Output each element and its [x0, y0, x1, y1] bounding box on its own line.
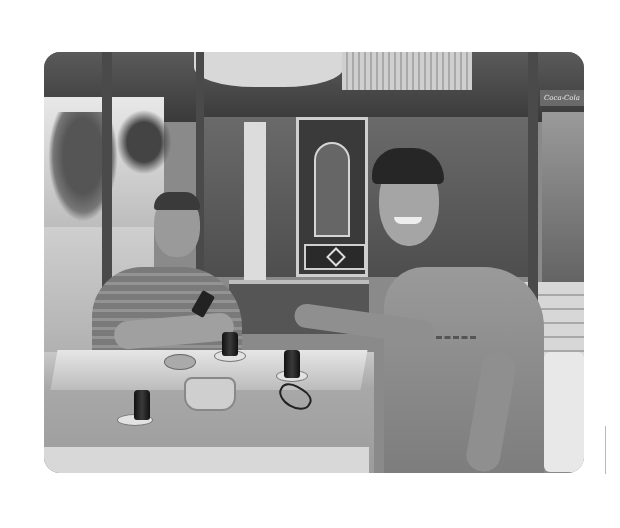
support-post — [528, 52, 538, 312]
pillar — [244, 122, 266, 282]
support-post — [196, 52, 204, 282]
awning — [194, 52, 344, 87]
door-arch — [314, 142, 350, 237]
divider-line — [605, 426, 606, 474]
smile — [394, 217, 422, 224]
tea-glass — [222, 332, 238, 356]
coca-cola-sign: Coca-Cola — [540, 90, 584, 106]
tablecloth-drape — [44, 447, 369, 473]
cafe-photo: Coca-Cola — [44, 52, 584, 473]
corrugated-roof — [342, 52, 472, 90]
tea-glass — [284, 350, 300, 378]
young-man-body — [384, 267, 544, 473]
tree — [114, 107, 174, 177]
sugar-bowl — [184, 377, 236, 411]
chair — [544, 352, 584, 472]
support-post — [102, 52, 112, 292]
tea-glass — [134, 390, 150, 420]
shirt-pocket — [436, 322, 476, 339]
ashtray — [164, 354, 196, 370]
man-hair — [154, 192, 200, 210]
